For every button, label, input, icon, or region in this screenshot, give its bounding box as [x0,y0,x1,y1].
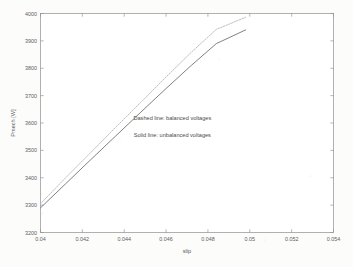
plot-frame [41,14,334,233]
y-tick-label: 3500 [25,147,37,153]
y-tick-label: 3700 [25,93,37,99]
y-tick-label: 3900 [25,38,37,44]
y-axis-title: Pmech [W] [10,109,16,137]
x-tick-label: 0.046 [159,236,173,242]
x-tick-label: 0.042 [76,236,90,242]
y-tick-label: 3200 [25,230,37,236]
y-tick-label: 3300 [25,202,37,208]
x-tick-label: 0.05 [245,236,256,242]
chart-annotation: Solid line: unbalanced voltages [134,132,211,138]
y-tick-label: 3600 [25,120,37,126]
x-tick-label: 0.04 [35,236,46,242]
chart-annotation: Dashed line: balanced voltages [133,115,211,121]
x-tick-label: 0.052 [285,236,299,242]
line-chart: 0.040.0420.0440.0460.0480.050.0520.05432… [0,0,353,267]
y-tick-label: 3800 [25,65,37,71]
y-tick-label: 4000 [25,11,37,17]
figure-page: 0.040.0420.0440.0460.0480.050.0520.05432… [0,0,353,267]
x-axis-title: slip [183,248,191,254]
x-tick-label: 0.044 [117,236,131,242]
chart-canvas: 0.040.0420.0440.0460.0480.050.0520.05432… [0,0,353,267]
x-tick-label: 0.054 [327,236,341,242]
x-tick-label: 0.048 [201,236,215,242]
y-tick-label: 3400 [25,175,37,181]
